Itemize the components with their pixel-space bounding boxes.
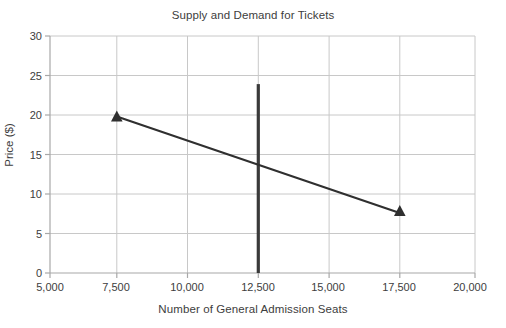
y-axis-ticks [45, 36, 50, 273]
plot-area [0, 0, 506, 328]
chart-container: Supply and Demand for Tickets Price ($) … [0, 0, 506, 328]
x-axis-ticks [50, 273, 475, 278]
horizontal-gridlines [50, 36, 475, 234]
demand-marker-left [111, 111, 123, 122]
demand-marker-right [394, 205, 406, 216]
